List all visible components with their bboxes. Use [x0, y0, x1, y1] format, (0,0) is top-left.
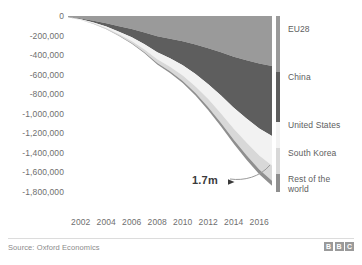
legend-item[interactable]: China [276, 72, 311, 122]
x-axis-tick-label: 2014 [224, 217, 243, 227]
y-axis-tick-label: -1,400,000 [0, 148, 64, 158]
legend-item-label: South Korea [288, 148, 336, 158]
x-axis-tick-label: 2010 [173, 217, 192, 227]
y-axis-tick-label: -400,000 [0, 50, 64, 60]
x-axis: 20022004200620082010201220142016 [68, 217, 272, 231]
legend-color-swatch [276, 174, 280, 192]
x-axis-tick-label: 2012 [199, 217, 218, 227]
legend-item-label: EU28 [288, 24, 310, 34]
y-axis-tick-label: -1,000,000 [0, 109, 64, 119]
y-axis-tick-label: -200,000 [0, 31, 64, 41]
legend-color-swatch [276, 72, 280, 122]
legend-item[interactable]: South Korea [276, 148, 336, 174]
legend-color-swatch [276, 16, 280, 72]
y-axis-tick-label: -1,800,000 [0, 187, 64, 197]
source-attribution: Source: Oxford Economics [8, 243, 100, 252]
y-axis-tick-label: -1,600,000 [0, 167, 64, 177]
legend-item-label: Rest of the world [288, 174, 330, 194]
y-axis: 0-200,000-400,000-600,000-800,000-1,000,… [0, 0, 64, 265]
bbc-logo-letter: B [335, 242, 344, 251]
legend-color-swatch [276, 122, 280, 148]
chart-legend: EU28ChinaUnited StatesSouth KoreaRest of… [276, 16, 362, 192]
x-axis-tick-label: 2016 [250, 217, 269, 227]
bbc-logo-letter: C [345, 242, 354, 251]
legend-item-label: China [288, 72, 311, 82]
y-axis-tick-label: 0 [0, 11, 64, 21]
x-axis-tick-label: 2004 [97, 217, 116, 227]
annotation-1-7m: 1.7m [192, 174, 218, 186]
y-axis-tick-label: -1,200,000 [0, 128, 64, 138]
legend-item-label: United States [288, 120, 340, 130]
x-axis-tick-label: 2008 [148, 217, 167, 227]
footer-divider [8, 238, 354, 239]
legend-item[interactable]: Rest of the world [276, 174, 330, 194]
bbc-logo: BBC [324, 242, 354, 251]
y-axis-tick-label: -600,000 [0, 70, 64, 80]
legend-color-swatch [276, 148, 280, 174]
legend-item[interactable]: United States [276, 120, 340, 148]
y-axis-tick-label: -800,000 [0, 89, 64, 99]
annotation-leader-line [230, 163, 276, 189]
x-axis-tick-label: 2002 [71, 217, 90, 227]
legend-item[interactable]: EU28 [276, 24, 310, 72]
bbc-logo-letter: B [324, 242, 333, 251]
x-axis-tick-label: 2006 [122, 217, 141, 227]
chart-screenshot: 0-200,000-400,000-600,000-800,000-1,000,… [0, 0, 362, 265]
